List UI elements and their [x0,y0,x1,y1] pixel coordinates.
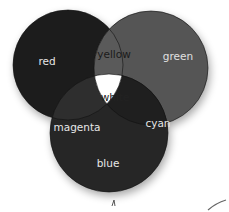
venn-diagram: red yellow green white magenta cyan blue [0,0,229,212]
label-red: red [38,55,55,67]
label-cyan: cyan [145,117,170,129]
scan-mark [112,200,115,206]
label-white: white [101,91,130,103]
label-yellow: yellow [97,48,131,60]
scan-mark-right [208,200,226,210]
label-magenta: magenta [54,121,101,133]
label-blue: blue [97,157,120,169]
label-green: green [163,50,193,62]
